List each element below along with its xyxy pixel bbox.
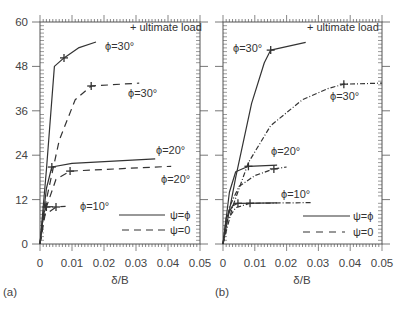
x-tick-a-0: 0 [37, 257, 43, 269]
series-line [223, 42, 306, 244]
panel-label-a: (a) [3, 286, 17, 298]
y-tick-48: 48 [15, 60, 28, 72]
x-tick-labels-a: 0 0.01 0.02 0.03 0.04 0.05 [37, 257, 211, 269]
chart-svg: 0 12 24 36 48 60 0 0.01 0.02 0.03 0.04 0… [0, 0, 403, 315]
panel-label-b: (b) [215, 286, 229, 298]
x-tick-b-3: 0.03 [307, 257, 329, 269]
series-line [223, 203, 277, 244]
label-b-phi20: ϕ=20° [271, 145, 300, 157]
x-tick-a-5: 0.05 [189, 257, 211, 269]
label-a-phi30-solid: ϕ=30° [105, 40, 134, 52]
x-axis-label-b: δ/B [293, 274, 311, 286]
label-b-phi30-dashed: ϕ=30° [330, 90, 359, 102]
figure: 0 12 24 36 48 60 0 0.01 0.02 0.03 0.04 0… [0, 0, 403, 315]
x-tick-a-3: 0.03 [125, 257, 147, 269]
label-b-phi10: ϕ=10° [281, 188, 310, 200]
x-tick-b-4: 0.04 [339, 257, 362, 269]
y-tick-36: 36 [15, 105, 28, 117]
x-axis-label-a: δ/B [111, 274, 129, 286]
series-line [223, 203, 312, 244]
label-a-phi30-dashed: ϕ=30° [128, 87, 157, 99]
x-tick-b-5: 0.05 [371, 257, 393, 269]
x-tick-a-2: 0.02 [93, 257, 115, 269]
label-a-phi20-solid: ϕ=20° [156, 144, 185, 156]
legend-ultimate-load-a: + ultimate load [130, 21, 202, 33]
series-line [40, 83, 139, 244]
x-tick-b-1: 0.01 [244, 257, 266, 269]
y-tick-24: 24 [15, 149, 28, 161]
legend-a-dashed-label: ψ=0 [170, 224, 190, 236]
y-tick-60: 60 [15, 16, 28, 28]
y-tick-12: 12 [15, 194, 28, 206]
x-tick-a-1: 0.01 [61, 257, 83, 269]
label-b-phi30-solid: ϕ=30° [233, 42, 262, 54]
label-a-phi20-dashed: ϕ=20° [161, 173, 190, 185]
legend-b-solid-label: ψ=ϕ [353, 210, 373, 222]
x-tick-labels-b: 0 0.01 0.02 0.03 0.04 0.05 [220, 257, 393, 269]
legend-ultimate-load-b: + ultimate load [307, 21, 379, 33]
x-tick-a-4: 0.04 [157, 257, 180, 269]
x-tick-b-2: 0.02 [275, 257, 297, 269]
y-tick-0: 0 [22, 238, 28, 250]
label-a-phi10: ϕ=10° [80, 200, 109, 212]
legend-a-solid-label: ψ=ϕ [170, 209, 190, 221]
series-line [40, 42, 96, 244]
legend-b-dashed-label: ψ=0 [353, 226, 373, 238]
y-tick-labels: 0 12 24 36 48 60 [15, 16, 28, 250]
x-tick-b-0: 0 [220, 257, 226, 269]
